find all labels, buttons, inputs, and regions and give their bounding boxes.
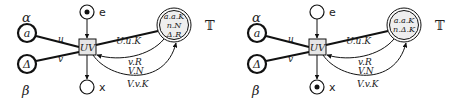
T-line-2: n.N [167, 21, 183, 30]
token-delta: Δ [22, 58, 31, 71]
arc-label-out: U.u.K [116, 36, 142, 46]
token-a: a [254, 27, 261, 40]
token-delta: Δ [252, 58, 261, 71]
place-e-label: e [99, 6, 106, 19]
alpha-label: α [22, 10, 31, 25]
place-x-label: x [329, 81, 336, 94]
arc-label-in3: V.v.K [357, 79, 380, 89]
place-T: a.a.K n.Δ.K 𝕋 [387, 8, 445, 42]
place-e: e [80, 5, 106, 19]
arc-label-out: U.u.K [346, 36, 372, 46]
arc-label-in3: V.v.K [127, 79, 150, 89]
place-e: e [310, 5, 336, 19]
place-a: a [18, 24, 36, 42]
T-line-2: n.Δ.K [393, 25, 416, 34]
token-a: a [24, 27, 31, 40]
diagram-left: α β a Δ u v e UV [18, 5, 215, 98]
token-dot-e [85, 10, 90, 15]
arc-label-u: u [288, 34, 294, 44]
diagram-right: α β a Δ u v e UV x [248, 5, 445, 98]
T-line-1: a.a.K [164, 12, 186, 21]
place-delta: Δ [18, 55, 36, 73]
T-label: 𝕋 [205, 18, 215, 33]
place-e-label: e [329, 6, 336, 19]
transition-label: UV [80, 42, 97, 53]
alpha-label: α [252, 10, 261, 25]
place-T: a.a.K n.N Δ.R 𝕋 [157, 8, 215, 42]
transition-label: UV [310, 42, 327, 53]
arc-label-v: v [288, 54, 293, 64]
transition-uv: UV [309, 39, 327, 55]
token-dot-x [315, 85, 320, 90]
transition-uv: UV [79, 39, 97, 55]
arc-label-v: v [58, 54, 63, 64]
beta-label: β [21, 83, 30, 98]
place-x: x [80, 80, 106, 94]
petri-net-figure: α β a Δ u v e UV [0, 0, 460, 106]
T-line-3: Δ.R [166, 30, 181, 39]
arc-label-u: u [58, 34, 64, 44]
place-delta: Δ [248, 55, 266, 73]
place-a: a [248, 24, 266, 42]
place-x-label: x [99, 81, 106, 94]
place-x: x [310, 80, 336, 94]
T-line-1: a.a.K [394, 16, 416, 25]
T-label: 𝕋 [435, 18, 445, 33]
beta-label: β [251, 83, 260, 98]
